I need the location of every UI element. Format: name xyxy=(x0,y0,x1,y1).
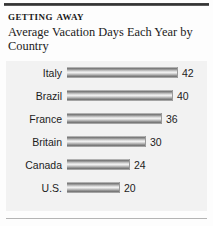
bar-segment xyxy=(67,159,130,170)
bar-value-label: 30 xyxy=(150,136,162,148)
bar-row: Britain30 xyxy=(6,130,207,153)
bar-row: Canada24 xyxy=(6,153,207,176)
bar-segment xyxy=(67,182,120,193)
bar-track: 36 xyxy=(67,107,207,130)
bar-row: Italy42 xyxy=(6,61,207,84)
chart-panel: Italy42Brazil40France36Britain30Canada24… xyxy=(6,61,207,211)
bar-track: 42 xyxy=(67,61,207,84)
bar-value-label: 36 xyxy=(166,113,178,125)
bar-track: 30 xyxy=(67,130,207,153)
bar-value-label: 20 xyxy=(124,182,136,194)
top-divider-rule xyxy=(4,3,209,6)
bar-value-label: 42 xyxy=(182,67,194,79)
bar-value-label: 40 xyxy=(177,90,189,102)
headline-block: Getting Away Average Vacation Days Each … xyxy=(8,8,208,53)
bar-value-label: 24 xyxy=(134,159,146,171)
bar-track: 40 xyxy=(67,84,207,107)
bar-segment xyxy=(67,67,178,78)
bar-rows-container: Italy42Brazil40France36Britain30Canada24… xyxy=(6,61,207,199)
bar-category-label: Italy xyxy=(6,67,67,79)
bar-row: France36 xyxy=(6,107,207,130)
bar-row: Brazil40 xyxy=(6,84,207,107)
bar-category-label: France xyxy=(6,113,67,125)
bottom-divider-rule xyxy=(6,218,207,219)
bar-segment xyxy=(67,90,173,101)
bar-row: U.S.20 xyxy=(6,176,207,199)
bar-category-label: Brazil xyxy=(6,90,67,102)
bar-category-label: U.S. xyxy=(6,182,67,194)
bar-track: 20 xyxy=(67,176,207,199)
bar-category-label: Canada xyxy=(6,159,67,171)
chart-subtitle: Average Vacation Days Each Year by Count… xyxy=(8,25,204,53)
bar-segment xyxy=(67,136,146,147)
chart-figure: Getting Away Average Vacation Days Each … xyxy=(0,0,213,226)
bar-segment xyxy=(67,113,162,124)
bar-category-label: Britain xyxy=(6,136,67,148)
bar-track: 24 xyxy=(67,153,207,176)
chart-kicker-title: Getting Away xyxy=(8,8,208,23)
